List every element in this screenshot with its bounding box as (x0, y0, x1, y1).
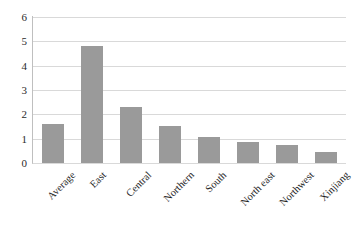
y-axis-tick-label: 6 (22, 12, 28, 23)
x-axis-tick-label: East (88, 170, 108, 190)
x-label-slot: Xinjiang (307, 166, 346, 224)
bar-slot (150, 17, 189, 163)
y-axis-tick-label: 5 (22, 36, 28, 47)
gridline (33, 163, 346, 164)
bar[interactable] (237, 142, 259, 163)
bar[interactable] (276, 145, 298, 163)
x-axis-tick-label: Xinjiang (319, 170, 352, 203)
x-axis-tick-label: Central (124, 170, 153, 199)
y-axis-tick-label: 0 (22, 158, 28, 169)
y-axis-tick-label: 4 (22, 60, 28, 71)
bar[interactable] (120, 107, 142, 163)
x-axis-tick-labels: AverageEastCentralNorthernSouthNorth eas… (33, 166, 346, 224)
x-label-slot: Northwest (268, 166, 307, 224)
bar-chart-figure: 0123456 AverageEastCentralNorthernSouthN… (0, 0, 358, 226)
y-axis-tick-label: 2 (22, 109, 28, 120)
x-label-slot: Central (111, 166, 150, 224)
bar[interactable] (42, 124, 64, 163)
x-label-slot: Northern (150, 166, 189, 224)
x-label-slot: Average (33, 166, 72, 224)
bar-slot (229, 17, 268, 163)
y-axis-tick-label: 3 (22, 85, 28, 96)
x-axis-tick-label: South (204, 170, 229, 195)
bar-slot (72, 17, 111, 163)
bar[interactable] (159, 126, 181, 163)
bar-slot (190, 17, 229, 163)
bar-slot (268, 17, 307, 163)
bar[interactable] (81, 46, 103, 163)
bar-series-group (33, 17, 346, 163)
x-label-slot: South (190, 166, 229, 224)
bar-slot (33, 17, 72, 163)
bar-slot (307, 17, 346, 163)
bar[interactable] (198, 137, 220, 163)
bar[interactable] (315, 152, 337, 163)
bar-slot (111, 17, 150, 163)
y-axis-tick-label: 1 (22, 133, 28, 144)
x-label-slot: North east (229, 166, 268, 224)
x-label-slot: East (72, 166, 111, 224)
plot-area: 0123456 (33, 17, 346, 163)
